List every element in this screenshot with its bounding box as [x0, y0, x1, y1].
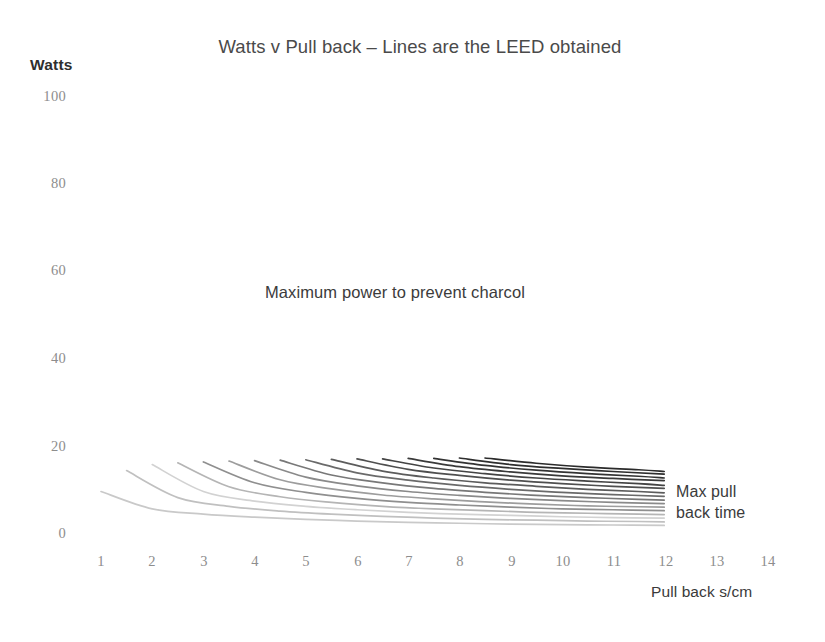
plot-area [0, 0, 825, 642]
x-tick-label-2: 2 [137, 553, 167, 570]
y-tick-label-40: 40 [20, 350, 66, 367]
x-tick-label-1: 1 [86, 553, 116, 570]
x-tick-label-8: 8 [445, 553, 475, 570]
x-tick-label-6: 6 [343, 553, 373, 570]
x-tick-label-11: 11 [599, 553, 629, 570]
x-tick-label-7: 7 [394, 553, 424, 570]
x-tick-label-9: 9 [497, 553, 527, 570]
x-tick-label-4: 4 [240, 553, 270, 570]
x-axis-title: Pull back s/cm [651, 583, 752, 601]
x-tick-label-3: 3 [189, 553, 219, 570]
x-tick-label-12: 12 [651, 553, 681, 570]
x-tick-label-10: 10 [548, 553, 578, 570]
annotation-max-pull-back-time-line1: Max pull [676, 481, 745, 502]
line-series-canvas [0, 0, 825, 642]
y-tick-label-20: 20 [20, 438, 66, 455]
x-tick-label-13: 13 [702, 553, 732, 570]
x-tick-label-14: 14 [753, 553, 783, 570]
annotation-max-pull-back-time-line2: back time [676, 502, 745, 523]
y-tick-label-60: 60 [20, 262, 66, 279]
chart-slide: Watts v Pull back – Lines are the LEED o… [0, 0, 825, 642]
y-tick-label-0: 0 [20, 525, 66, 542]
y-tick-label-100: 100 [20, 88, 66, 105]
y-tick-label-80: 80 [20, 175, 66, 192]
annotation-max-pull-back-time: Max pull back time [676, 481, 745, 523]
x-tick-label-5: 5 [291, 553, 321, 570]
annotation-maximum-power: Maximum power to prevent charcol [265, 283, 525, 302]
